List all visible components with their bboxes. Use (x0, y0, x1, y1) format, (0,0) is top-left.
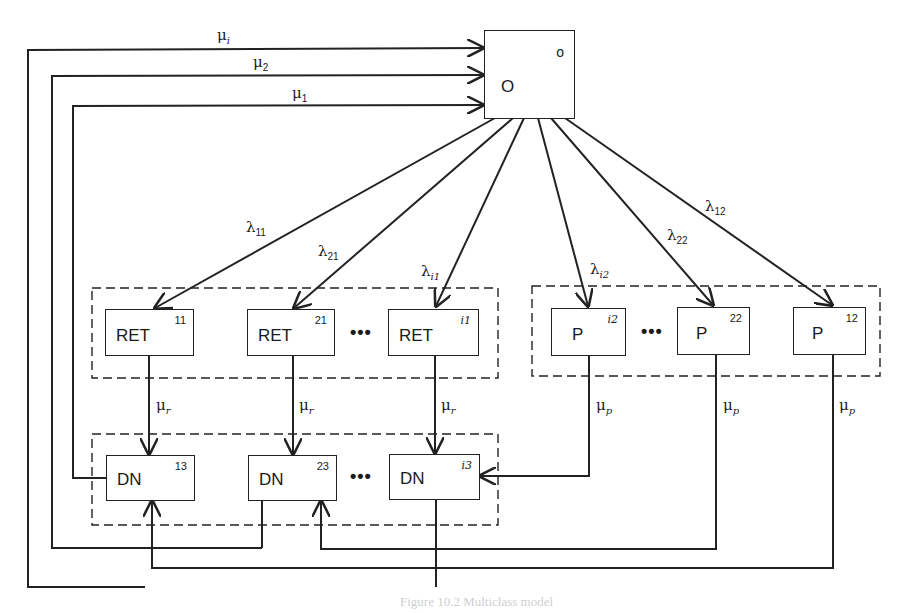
dn-node-superscript: 23 (317, 460, 329, 472)
ret-node-superscript: 21 (315, 314, 327, 326)
service-label-p-1: μp (596, 396, 612, 416)
p-node-i2: P i2 (551, 308, 626, 356)
return-label-i: μi (217, 26, 230, 46)
dn-node-13: DN 13 (106, 455, 195, 501)
p-node-name: P (812, 324, 823, 344)
dn-node-name: DN (400, 469, 425, 489)
ret-node-i1: RET i1 (388, 309, 479, 356)
arrival-label-i1: λi1 (421, 262, 440, 282)
ret-node-name: RET (258, 326, 292, 346)
service-label-ret-3: μr (441, 396, 456, 416)
p-node-superscript: 12 (846, 312, 858, 324)
p-node-22: P 22 (677, 307, 750, 355)
arrival-label-i2: λi2 (590, 260, 609, 280)
origin-node-name: O (501, 77, 514, 97)
ret-node-name: RET (116, 326, 150, 346)
ret-node-superscript: 11 (175, 314, 186, 326)
arrival-label-12: λ12 (705, 197, 726, 217)
p-ellipsis: ••• (641, 321, 663, 342)
p-node-superscript: 22 (730, 312, 742, 324)
ret-node-11: RET 11 (105, 309, 194, 356)
connection-wires (0, 0, 909, 613)
return-wire-1 (73, 105, 483, 478)
ret-node-superscript: i1 (460, 314, 471, 327)
arrival-label-22: λ22 (667, 226, 688, 246)
dn-node-name: DN (117, 470, 142, 490)
figure-caption: Figure 10.2 Multiclass model (400, 594, 553, 610)
ret-node-name: RET (399, 326, 433, 346)
service-label-ret-2: μr (299, 396, 314, 416)
p-node-name: P (572, 325, 583, 345)
return-label-1: μ1 (292, 84, 307, 104)
origin-node: O o (484, 30, 575, 119)
p-node-name: P (696, 324, 707, 344)
origin-node-superscript: o (556, 44, 564, 60)
ret-ellipsis: ••• (350, 322, 372, 343)
arrival-label-11: λ11 (246, 218, 266, 238)
service-label-p-2: μp (723, 396, 739, 416)
service-label-ret-1: μr (156, 396, 171, 416)
dn-node-superscript: i3 (461, 459, 472, 472)
return-label-2: μ2 (253, 53, 268, 73)
p-node-12: P 12 (793, 307, 866, 355)
p-node-superscript: i2 (607, 313, 618, 326)
arrival-label-21: λ21 (318, 242, 339, 262)
dn-node-name: DN (259, 470, 284, 490)
dn-node-23: DN 23 (248, 455, 337, 501)
dn-node-superscript: 13 (175, 460, 187, 472)
dn-ellipsis: ••• (350, 466, 372, 487)
ret-node-21: RET 21 (247, 309, 335, 356)
dn-node-i3: DN i3 (389, 454, 480, 500)
service-label-p-3: μp (839, 396, 855, 416)
